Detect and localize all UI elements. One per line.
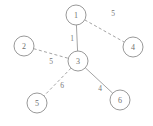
node-label-5: 5 (35, 99, 39, 108)
node-label-1: 1 (74, 11, 78, 20)
edge-3-5 (44, 68, 71, 96)
nodes-group: 123456 (14, 5, 143, 113)
node-label-6: 6 (118, 96, 122, 105)
edge-weight-2-3: 5 (49, 57, 53, 66)
edge-1-4 (85, 20, 125, 42)
edge-weight-3-5: 6 (60, 81, 64, 90)
node-label-3: 3 (76, 57, 80, 66)
graph-diagram: 15564 123456 (0, 0, 153, 126)
edge-weight-1-4: 5 (111, 9, 115, 18)
edge-weight-1-3: 1 (70, 34, 74, 43)
node-label-2: 2 (22, 42, 26, 51)
edge-1-3 (76, 25, 77, 51)
graph-svg: 15564 123456 (0, 0, 153, 126)
edge-weight-3-6: 4 (98, 84, 102, 93)
node-label-4: 4 (131, 43, 135, 52)
